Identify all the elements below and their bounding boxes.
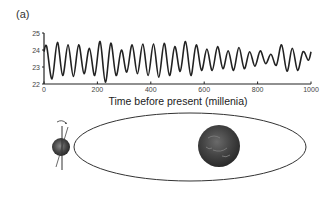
x-tick-label: 400 bbox=[145, 86, 157, 93]
x-tick-label: 200 bbox=[92, 86, 104, 93]
y-axis: 22232425 bbox=[32, 30, 44, 88]
x-tick-label: 800 bbox=[252, 86, 264, 93]
obliquity-chart: 22232425 02004006008001000 Time before p… bbox=[0, 0, 334, 197]
y-tick-label: 23 bbox=[32, 64, 40, 71]
x-axis: 02004006008001000 bbox=[42, 82, 319, 94]
orbit-diagram bbox=[52, 113, 306, 181]
sun-icon bbox=[198, 125, 240, 167]
x-tick-label: 1000 bbox=[303, 86, 319, 93]
x-tick-label: 0 bbox=[42, 86, 46, 93]
earth-icon bbox=[52, 121, 70, 170]
y-tick-label: 24 bbox=[32, 47, 40, 54]
x-axis-title: Time before present (millenia) bbox=[108, 95, 247, 107]
orbit-ellipse bbox=[74, 113, 306, 181]
x-tick-label: 600 bbox=[198, 86, 210, 93]
y-tick-label: 22 bbox=[32, 81, 40, 88]
series-line bbox=[44, 41, 311, 82]
y-tick-label: 25 bbox=[32, 30, 40, 37]
